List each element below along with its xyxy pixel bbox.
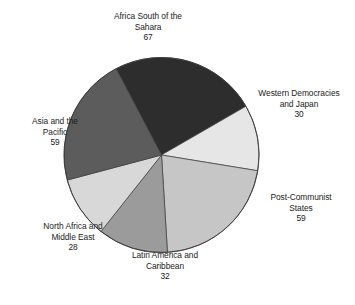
pie-value-northafrica: 28	[18, 242, 128, 253]
pie-value-asia: 59	[6, 137, 104, 148]
pie-value-postcommunist: 59	[250, 213, 352, 224]
pie-label-africa-south-of-the-sahara: Africa South of the Sahara 67	[88, 11, 208, 43]
pie-label-western-democracies-and-japan: Western Democracies and Japan 30	[243, 88, 355, 120]
pie-label-asia-line2: Pacific	[6, 127, 104, 138]
pie-label-north-africa-and-middle-east: North Africa and Middle East 28	[18, 221, 128, 253]
pie-label-northafrica-line1: North Africa and	[18, 221, 128, 232]
pie-label-western-line2: and Japan	[243, 99, 355, 110]
pie-value-western: 30	[243, 109, 355, 120]
pie-value-africa: 67	[88, 32, 208, 43]
pie-label-asia-line1: Asia and the	[6, 116, 104, 127]
pie-label-northafrica-line2: Middle East	[18, 232, 128, 243]
pie-chart-figure: Africa South of the Sahara 67 Western De…	[0, 0, 355, 305]
pie-label-latin-america-and-caribbean: Latin America and Caribbean 32	[108, 250, 222, 282]
pie-label-post-communist-states: Post-Communist States 59	[250, 192, 352, 224]
pie-label-western-line1: Western Democracies	[243, 88, 355, 99]
pie-label-africa-line1: Africa South of the	[88, 11, 208, 22]
pie-slice-post-communist-states	[162, 155, 258, 252]
pie-value-latin: 32	[108, 271, 222, 282]
pie-label-postcommunist-line2: States	[250, 203, 352, 214]
pie-label-africa-line2: Sahara	[88, 22, 208, 33]
pie-label-asia-and-the-pacific: Asia and the Pacific 59	[6, 116, 104, 148]
pie-label-latin-line2: Caribbean	[108, 261, 222, 272]
pie-label-postcommunist-line1: Post-Communist	[250, 192, 352, 203]
